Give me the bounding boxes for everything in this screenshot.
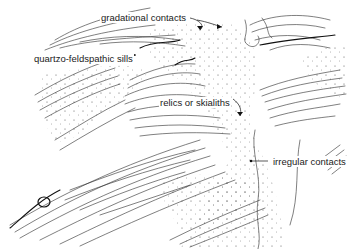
label-quartzo-feldspathic-sills: quartzo-feldspathic sills [33, 53, 134, 64]
label-relics-or-skialiths: relics or skialiths [159, 97, 231, 108]
label-gradational-contacts: gradational contacts [100, 12, 187, 23]
label-irregular-contacts: irregular contacts [272, 156, 347, 167]
geology-figure: gradational contacts quartzo-feldspathic… [0, 0, 348, 249]
migmatite-drawing [0, 0, 348, 249]
